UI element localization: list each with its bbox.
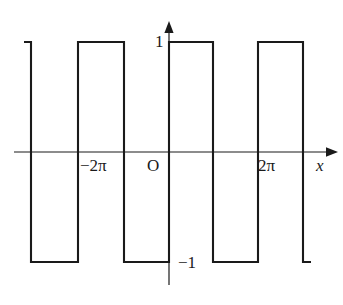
- y-axis-arrowhead: [164, 21, 173, 33]
- x-axis-label: x: [316, 157, 324, 174]
- x-tick-label-negative-two-pi: −2π: [80, 157, 107, 174]
- x-axis: [14, 147, 338, 157]
- origin-label: O: [147, 157, 159, 174]
- square-wave-figure: 1 −1 O −2π 2π x: [0, 0, 343, 305]
- x-axis-arrowhead: [326, 147, 338, 157]
- y-axis-label-one: 1: [155, 33, 164, 50]
- plot-canvas: [0, 0, 343, 305]
- x-tick-label-two-pi: 2π: [258, 157, 275, 174]
- y-axis-label-negative-one: −1: [178, 254, 196, 271]
